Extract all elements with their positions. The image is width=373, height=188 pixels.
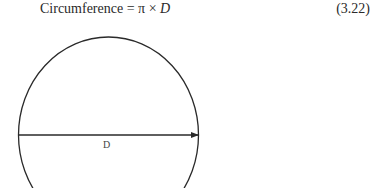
diameter-label: D (103, 139, 110, 151)
circle-outline (19, 37, 199, 188)
circle-diagram (0, 0, 373, 188)
